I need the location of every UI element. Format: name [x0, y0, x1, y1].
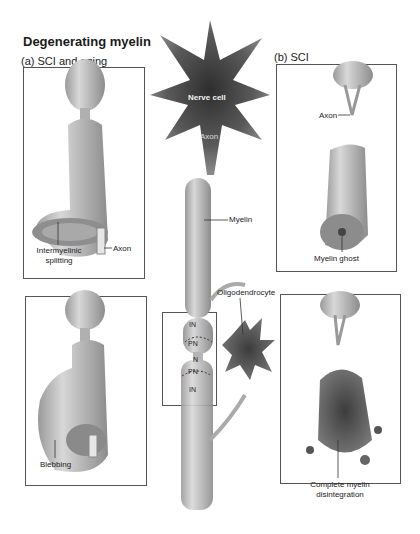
oligodendrocyte-illustration [222, 318, 275, 380]
label-oligodendrocyte: Oligodendrocyte [217, 288, 275, 298]
illustration-layer [0, 0, 420, 534]
label-node-in-top: IN [189, 320, 196, 330]
label-axon-b: Axon [319, 111, 337, 121]
label-myelin: Myelin [229, 215, 252, 225]
label-node-in-bottom: IN [189, 385, 196, 395]
panel-a-top-illustration [32, 59, 108, 257]
panel-b-top-illustration [320, 61, 373, 250]
label-node-pn-bottom: PN [188, 367, 198, 377]
label-axon-center: Axon [200, 132, 218, 142]
panel-b-bottom-illustration [306, 291, 382, 465]
panel-a-bottom-illustration [38, 290, 108, 472]
label-myelin-ghost: Myelin ghost [314, 254, 359, 264]
label-nerve-cell: Nerve cell [188, 93, 226, 103]
label-node-pn-top: PN [188, 339, 198, 349]
label-complete-disintegration: Complete myelin disintegration [300, 480, 380, 500]
label-axon-a: Axon [113, 244, 131, 254]
label-intermyelinic-splitting: Intermyelinic splitting [34, 246, 84, 266]
label-blebbing: Blebbing [40, 460, 71, 470]
label-node-n: N [193, 355, 198, 365]
